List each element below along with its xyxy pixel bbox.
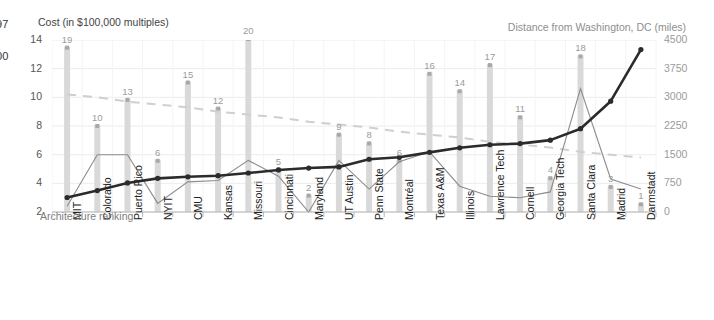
bar-label-cornell: 11 <box>508 103 532 114</box>
bar-label-kansas: 12 <box>206 95 230 106</box>
left-tick-12: 12 <box>16 62 42 74</box>
bar-label-illinois: 14 <box>448 77 472 88</box>
clipped-text-bottom: 00 <box>0 50 9 62</box>
left-tick-8: 8 <box>16 119 42 131</box>
left-tick-10: 10 <box>16 90 42 102</box>
right-tick-2250: 2250 <box>664 119 698 131</box>
right-tick-750: 750 <box>664 176 698 188</box>
bar-label-montr-al: 6 <box>387 147 411 158</box>
bar-label-missouri: 20 <box>236 25 260 36</box>
right-tick-3000: 3000 <box>664 90 698 102</box>
bar-label-cmu: 15 <box>176 69 200 80</box>
left-tick-14: 14 <box>16 33 42 45</box>
bar-label-texas-a-m: 16 <box>418 60 442 71</box>
left-tick-6: 6 <box>16 148 42 160</box>
right-tick-1500: 1500 <box>664 148 698 160</box>
right-tick-3750: 3750 <box>664 62 698 74</box>
bar-label-mit: 19 <box>55 34 79 45</box>
bar-label-colorado: 10 <box>85 112 109 123</box>
right-tick-4500: 4500 <box>664 33 698 45</box>
clipped-text-top: 97 <box>0 18 9 30</box>
left-axis-title: Cost (in $100,000 multiples) <box>38 16 169 28</box>
chart-root: 97 00 Cost (in $100,000 multiples) Dista… <box>0 0 714 320</box>
right-tick-0: 0 <box>664 205 698 217</box>
bar-label-lawrence-tech: 17 <box>478 51 502 62</box>
bar-label-nyit: 6 <box>146 147 170 158</box>
left-tick-2: 2 <box>16 205 42 217</box>
bar-label-madrid: 3 <box>599 173 623 184</box>
bar-label-santa-clara: 18 <box>569 42 593 53</box>
bar-label-puerto-rico: 13 <box>116 86 140 97</box>
bar-label-ut-austin: 9 <box>327 121 351 132</box>
bar-label-penn-state: 8 <box>357 129 381 140</box>
bar-label-cincinnati: 5 <box>267 156 291 167</box>
x-label-lawrence-tech: Lawrence Tech <box>494 150 506 220</box>
left-tick-4: 4 <box>16 176 42 188</box>
right-axis-title: Distance from Washington, DC (miles) <box>508 21 686 33</box>
x-label-georgia-tech: Georgia Tech <box>554 158 566 220</box>
